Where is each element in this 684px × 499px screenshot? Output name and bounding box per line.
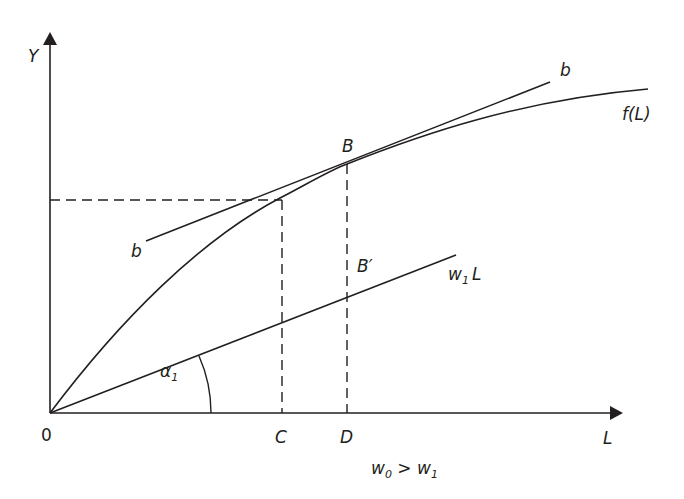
wage-line-label: w1L — [448, 264, 481, 287]
wage-line — [50, 255, 456, 413]
point-b-prime-label: B′ — [357, 256, 373, 276]
tangent-label-lower: b — [131, 241, 142, 261]
origin-label: 0 — [41, 425, 52, 445]
production-diagram: Y L 0 b b f(L) B B′ C D w1L α1 w0 > w1 — [0, 0, 684, 499]
point-c-label: C — [275, 427, 287, 447]
y-axis-arrowhead-icon — [43, 32, 57, 45]
production-function-label: f(L) — [622, 104, 651, 124]
wage-comparison-caption: w0 > w1 — [371, 458, 438, 481]
x-axis-arrowhead-icon — [610, 406, 623, 420]
point-b-label: B — [342, 136, 354, 156]
y-axis — [43, 32, 57, 413]
angle-arc — [199, 356, 211, 413]
x-axis — [50, 406, 623, 420]
tangent-line-bb — [146, 82, 550, 241]
x-axis-label: L — [603, 428, 612, 448]
tangent-label-upper: b — [560, 60, 571, 80]
y-axis-label: Y — [28, 46, 40, 66]
point-d-label: D — [340, 427, 353, 447]
